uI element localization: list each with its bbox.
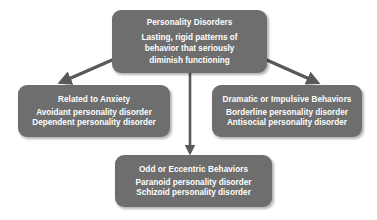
node-odd-or-eccentric-behaviors[interactable]: Odd or Eccentric Behaviors Paranoid pers…: [115, 155, 272, 207]
node-body: Lasting, rigid patterns of behavior that…: [142, 32, 238, 66]
node-body: Avoidant personality disorder Dependent …: [32, 108, 155, 129]
personality-disorders-diagram: Personality Disorders Lasting, rigid pat…: [0, 0, 377, 220]
node-body-line: Lasting, rigid patterns of: [142, 32, 238, 43]
node-body-line: Antisocial personality disorder: [227, 118, 347, 129]
node-related-to-anxiety[interactable]: Related to Anxiety Avoidant personality …: [18, 85, 170, 137]
node-body: Paranoid personality disorder Schizoid p…: [135, 178, 251, 199]
node-title: Personality Disorders: [147, 17, 233, 28]
node-title: Related to Anxiety: [58, 94, 130, 105]
arrow-root-to-anxiety: [64, 57, 119, 81]
node-body-line: Schizoid personality disorder: [136, 188, 251, 199]
node-body-line: Avoidant personality disorder: [36, 108, 152, 119]
node-body-line: diminish functioning: [149, 55, 230, 66]
node-body-line: behavior that seriously: [145, 43, 235, 54]
node-body: Borderline personality disorder Antisoci…: [226, 108, 348, 129]
node-title: Dramatic or Impulsive Behaviors: [223, 94, 352, 105]
node-title: Odd or Eccentric Behaviors: [139, 164, 248, 175]
arrow-root-to-dramatic: [260, 57, 314, 81]
node-body-line: Dependent personality disorder: [32, 118, 155, 129]
node-personality-disorders[interactable]: Personality Disorders Lasting, rigid pat…: [112, 10, 267, 73]
node-body-line: Borderline personality disorder: [226, 108, 348, 119]
node-body-line: Paranoid personality disorder: [135, 178, 251, 189]
node-dramatic-or-impulsive-behaviors[interactable]: Dramatic or Impulsive Behaviors Borderli…: [212, 85, 362, 137]
